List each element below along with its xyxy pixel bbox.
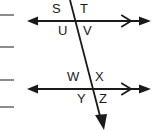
transversal-bottom-arrowhead bbox=[95, 114, 107, 130]
transversal-line bbox=[70, 0, 107, 130]
bottom-parallel-line bbox=[27, 84, 151, 95]
margin-dash-3 bbox=[0, 79, 14, 81]
angle-label-V: V bbox=[83, 24, 92, 37]
angle-label-T: T bbox=[80, 2, 88, 15]
angle-label-X: X bbox=[95, 70, 104, 83]
top-line-right-arrowhead bbox=[139, 17, 151, 26]
geometry-figure: S T U V W X Y Z bbox=[0, 0, 156, 131]
angle-label-Y: Y bbox=[77, 92, 86, 105]
margin-dash-1 bbox=[0, 14, 14, 16]
angle-label-U: U bbox=[58, 24, 67, 37]
bottom-line-right-arrowhead bbox=[139, 85, 151, 94]
margin-dash-2 bbox=[0, 46, 14, 48]
angle-label-Z: Z bbox=[99, 92, 107, 105]
angle-label-W: W bbox=[67, 70, 79, 83]
angle-label-S: S bbox=[52, 2, 61, 15]
margin-marker-group bbox=[0, 14, 14, 108]
margin-dash-4 bbox=[0, 106, 14, 108]
top-line-left-arrowhead bbox=[27, 17, 38, 26]
figure-canvas bbox=[0, 0, 156, 131]
bottom-line-left-arrowhead bbox=[27, 85, 38, 94]
